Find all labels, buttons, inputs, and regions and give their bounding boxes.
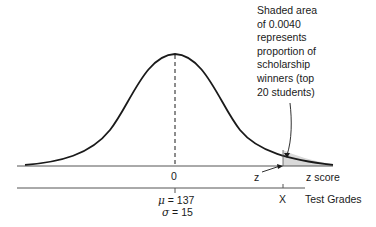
annotation-line: Shaded area — [257, 4, 317, 18]
z-tick-label: z — [254, 171, 259, 183]
mu-value: = 137 — [165, 194, 195, 206]
shaded-area-annotation: Shaded area of 0.0040 represents proport… — [257, 4, 317, 99]
z-score-axis-label: z score — [306, 171, 340, 183]
annotation-line: 20 students) — [257, 86, 317, 100]
z-pointer-arrow — [262, 166, 280, 172]
annotation-line: represents — [257, 31, 317, 45]
x-tick-label: X — [279, 193, 286, 205]
annotation-line: proportion of — [257, 45, 317, 59]
z-tick-zero-label: 0 — [171, 170, 177, 182]
mu-symbol: μ — [158, 194, 165, 206]
annotation-arrow — [287, 103, 291, 155]
annotation-line: of 0.0040 — [257, 18, 317, 32]
sd-label: σ = 15 — [162, 206, 193, 218]
sigma-value: = 15 — [169, 206, 193, 218]
annotation-line: winners (top — [257, 72, 317, 86]
test-grades-axis-label: Test Grades — [305, 193, 362, 205]
annotation-line: scholarship — [257, 58, 317, 72]
z-pointer-arrowhead — [277, 164, 283, 169]
mean-label: μ = 137 — [158, 194, 194, 206]
